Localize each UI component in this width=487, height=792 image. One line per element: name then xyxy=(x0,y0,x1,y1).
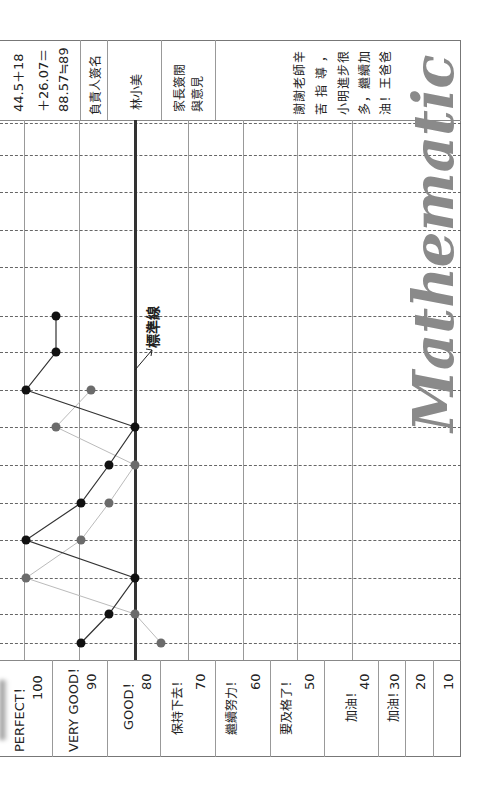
scan-shadow xyxy=(0,680,8,740)
label-divider xyxy=(378,660,379,757)
label-divider xyxy=(433,660,434,757)
score-label-keep-going: 保持下去！ xyxy=(168,675,185,735)
score-label-cheer-40: 加油！ xyxy=(342,686,359,722)
score-label-very-good: VERY GOOD！ xyxy=(63,661,82,752)
label-divider xyxy=(107,660,108,757)
label-divider xyxy=(160,660,161,757)
score-label-keep-trying: 繼續努力！ xyxy=(222,675,239,735)
label-divider xyxy=(52,660,53,757)
score-value-60: 60 xyxy=(248,673,263,690)
score-value-40: 40 xyxy=(357,673,372,690)
score-value-80: 80 xyxy=(139,673,154,690)
label-divider xyxy=(270,660,271,757)
score-label-good: GOOD！ xyxy=(118,676,137,730)
score-value-30: 30 xyxy=(387,673,402,690)
secondary-series-points xyxy=(22,386,166,648)
score-value-100: 100 xyxy=(30,675,45,700)
score-label-almost-pass: 要及格了！ xyxy=(277,675,294,735)
score-value-70: 70 xyxy=(193,673,208,690)
score-value-50: 50 xyxy=(302,673,317,690)
score-value-10: 10 xyxy=(441,673,456,690)
score-value-20: 20 xyxy=(413,673,428,690)
standard-line-label: 標準線 xyxy=(142,306,162,348)
score-label-perfect: PERFECT！ xyxy=(9,681,28,752)
label-divider xyxy=(324,660,325,757)
label-divider xyxy=(215,660,216,757)
score-label-cheer-30: 加油！ xyxy=(384,686,401,722)
standard-line-pointer xyxy=(135,350,152,370)
label-divider xyxy=(405,660,406,757)
score-value-90: 90 xyxy=(84,673,99,690)
